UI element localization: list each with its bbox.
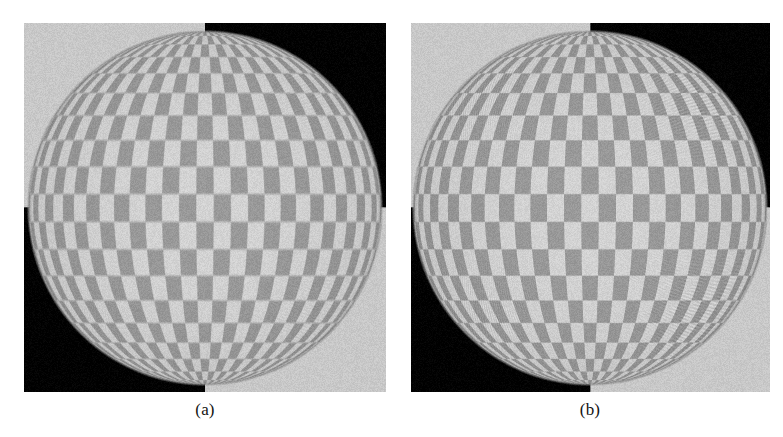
panel-b-canvas: [411, 23, 770, 392]
figure-container: (a) (b): [0, 0, 783, 437]
panel-a-caption: (a): [145, 400, 265, 420]
panel-b-image: [411, 23, 770, 392]
panel-a-image: [24, 23, 386, 392]
panel-b-caption: (b): [530, 400, 650, 420]
panel-a-canvas: [24, 23, 386, 392]
